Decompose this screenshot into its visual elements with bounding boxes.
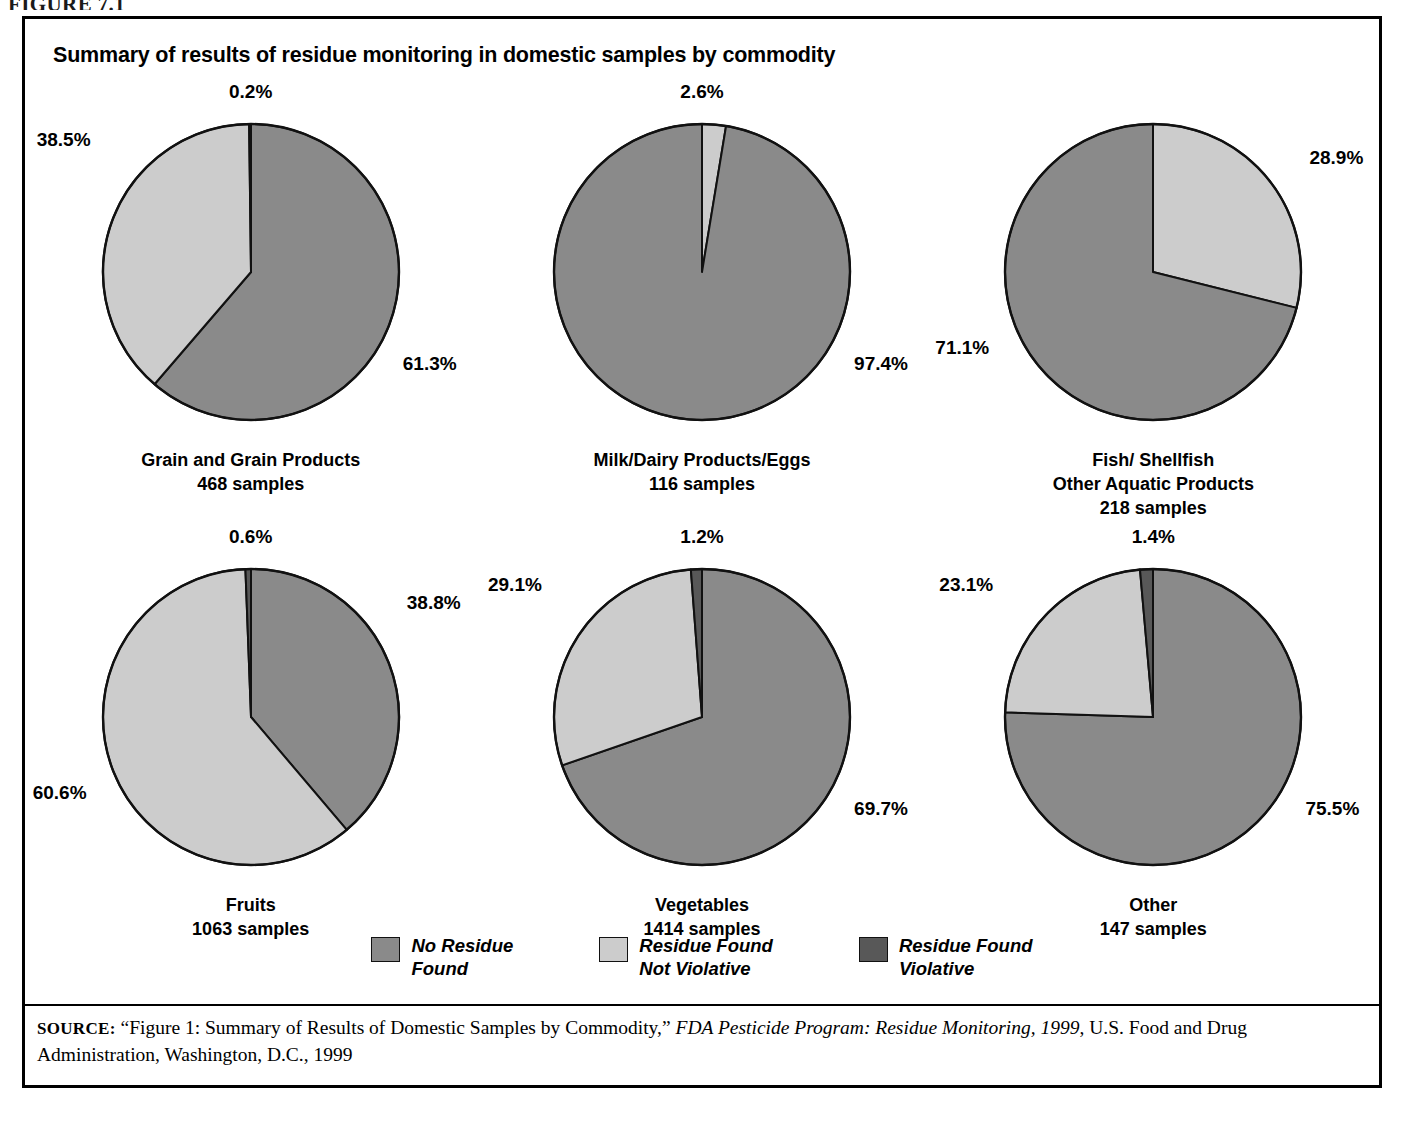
pie-caption-line: Other — [1100, 894, 1207, 918]
source-divider — [25, 1004, 1379, 1006]
pie-caption-line: 116 samples — [593, 473, 810, 497]
legend-residue-found-not-violative: Residue FoundNot Violative — [599, 934, 773, 981]
pie-percent-label: 1.4% — [1132, 526, 1175, 548]
pie-caption-line: Grain and Grain Products — [141, 449, 360, 473]
pie-chart-grid: 0.2%38.5%61.3%Grain and Grain Products46… — [25, 85, 1379, 942]
pie-chart-fruits: 0.6%38.8%60.6%Fruits1063 samples — [25, 530, 476, 942]
pie-svg-vegetables — [537, 552, 867, 882]
legend-label-line2: Violative — [899, 957, 1033, 980]
legend-label-line1: Residue Found — [639, 935, 773, 956]
pie-percent-label: 29.1% — [488, 574, 542, 596]
pie-caption-line: 218 samples — [1053, 497, 1254, 521]
figure-number-label: FIGURE 7.1 — [8, 0, 125, 10]
pie-slice — [554, 124, 850, 420]
pie-area-milk-dairy-products-eggs: 2.6%97.4% — [502, 85, 902, 445]
pie-caption-line: Vegetables — [643, 894, 760, 918]
legend-swatch — [599, 937, 628, 962]
pie-percent-label: 60.6% — [33, 782, 87, 804]
pie-percent-label: 2.6% — [680, 81, 723, 103]
legend-label-line2: Not Violative — [639, 957, 773, 980]
pie-svg-fish-shellfish-other-aquatic-products — [988, 107, 1318, 437]
pie-percent-label: 23.1% — [939, 574, 993, 596]
pie-area-grain-and-grain-products: 0.2%38.5%61.3% — [51, 85, 451, 445]
legend-swatch — [371, 937, 400, 962]
pie-caption-grain-and-grain-products: Grain and Grain Products468 samples — [141, 449, 360, 497]
legend-label-line1: Residue Found — [899, 935, 1033, 956]
pie-chart-vegetables: 1.2%29.1%69.7%Vegetables1414 samples — [476, 530, 927, 942]
pie-percent-label: 97.4% — [854, 353, 908, 375]
pie-slice — [1005, 570, 1153, 717]
pie-caption-line: Other Aquatic Products — [1053, 473, 1254, 497]
pie-caption-line: Milk/Dairy Products/Eggs — [593, 449, 810, 473]
pie-caption-milk-dairy-products-eggs: Milk/Dairy Products/Eggs116 samples — [593, 449, 810, 497]
legend-residue-found-violative: Residue FoundViolative — [859, 934, 1033, 981]
legend-label: Residue FoundNot Violative — [639, 934, 773, 981]
pie-chart-grain-and-grain-products: 0.2%38.5%61.3%Grain and Grain Products46… — [25, 85, 476, 520]
source-italic-title: FDA Pesticide Program: Residue Monitorin… — [675, 1017, 1079, 1038]
pie-caption-line: Fish/ Shellfish — [1053, 449, 1254, 473]
legend-label: Residue FoundViolative — [899, 934, 1033, 981]
pie-svg-other — [988, 552, 1318, 882]
legend-swatch — [859, 937, 888, 962]
pie-svg-grain-and-grain-products — [86, 107, 416, 437]
figure-panel: Summary of results of residue monitoring… — [22, 16, 1382, 1088]
pie-caption-line: Fruits — [192, 894, 309, 918]
pie-percent-label: 71.1% — [935, 337, 989, 359]
pie-percent-label: 38.8% — [407, 592, 461, 614]
legend-label-line1: No Residue — [411, 935, 513, 956]
pie-svg-milk-dairy-products-eggs — [537, 107, 867, 437]
pie-chart-other: 1.4%23.1%75.5%Other147 samples — [928, 530, 1379, 942]
pie-percent-label: 61.3% — [403, 353, 457, 375]
pie-percent-label: 75.5% — [1305, 798, 1359, 820]
source-prefix: SOURCE: — [37, 1019, 116, 1038]
chart-legend: No ResidueFoundResidue FoundNot Violativ… — [25, 934, 1379, 981]
pie-area-vegetables: 1.2%29.1%69.7% — [502, 530, 902, 890]
pie-caption-fish-shellfish-other-aquatic-products: Fish/ ShellfishOther Aquatic Products218… — [1053, 449, 1254, 520]
source-note: SOURCE: “Figure 1: Summary of Results of… — [37, 1015, 1369, 1069]
pie-chart-fish-shellfish-other-aquatic-products: 28.9%71.1%Fish/ ShellfishOther Aquatic P… — [928, 85, 1379, 520]
pie-percent-label: 28.9% — [1309, 147, 1363, 169]
source-text-before: “Figure 1: Summary of Results of Domesti… — [120, 1017, 675, 1038]
pie-svg-fruits — [86, 552, 416, 882]
pie-caption-line: 468 samples — [141, 473, 360, 497]
pie-percent-label: 69.7% — [854, 798, 908, 820]
legend-label-line2: Found — [411, 957, 513, 980]
legend-no-residue-found: No ResidueFound — [371, 934, 513, 981]
legend-label: No ResidueFound — [411, 934, 513, 981]
pie-chart-milk-dairy-products-eggs: 2.6%97.4%Milk/Dairy Products/Eggs116 sam… — [476, 85, 927, 520]
pie-percent-label: 0.2% — [229, 81, 272, 103]
pie-area-fish-shellfish-other-aquatic-products: 28.9%71.1% — [953, 85, 1353, 445]
chart-title: Summary of results of residue monitoring… — [53, 43, 835, 68]
pie-percent-label: 38.5% — [37, 129, 91, 151]
pie-area-other: 1.4%23.1%75.5% — [953, 530, 1353, 890]
pie-area-fruits: 0.6%38.8%60.6% — [51, 530, 451, 890]
pie-percent-label: 0.6% — [229, 526, 272, 548]
pie-percent-label: 1.2% — [680, 526, 723, 548]
